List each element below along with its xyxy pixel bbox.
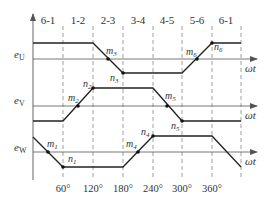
omega-t-label: ωt [245,62,257,74]
angle-tick-labels: 60° 120° 180° 240° 300° 360° [56,183,222,194]
bemf-waveform-diagram: 6-1 1-2 2-3 3-4 4-5 5-6 6-1 ωt ωt ωt eU … [0,0,271,199]
point-label-n2: n2 [83,78,92,91]
sector-label: 5-6 [190,14,205,26]
angle-tick: 360° [202,183,222,194]
omega-t-label: ωt [245,109,257,121]
point-label-n1: n1 [68,153,77,166]
axis-labels: ωt ωt ωt [245,62,257,167]
sector-labels: 6-1 1-2 2-3 3-4 4-5 5-6 6-1 [41,14,234,26]
point-label-n3: n3 [110,72,119,85]
waveform-v [33,88,241,121]
waveform-u [33,43,241,73]
phase-label-u: eU [14,48,25,62]
point-label-m2: m2 [68,92,79,105]
point-label-n4: n4 [141,126,150,139]
point-label-n5: n5 [171,120,180,133]
phase-label-w: eW [14,141,27,155]
angle-tick: 180° [113,183,133,194]
angle-tick: 60° [56,183,71,194]
sector-label: 1-2 [71,14,86,26]
sector-label: 2-3 [101,14,116,26]
point-label-m3: m3 [106,45,117,58]
point-label-m5: m5 [165,90,176,103]
marker-points [46,41,214,169]
point-label-m1: m1 [47,138,58,151]
angle-tick: 120° [83,183,103,194]
angle-tick: 240° [143,183,163,194]
omega-t-label: ωt [245,155,257,167]
phase-label-v: eV [14,94,25,108]
point-label-m6: m6 [186,46,197,59]
point-label-m4: m4 [126,138,137,151]
sector-label: 4-5 [160,14,175,26]
sector-label: 3-4 [131,14,146,26]
angle-tick: 300° [172,183,192,194]
sector-label: 6-1 [219,14,234,26]
sector-label: 6-1 [41,14,56,26]
